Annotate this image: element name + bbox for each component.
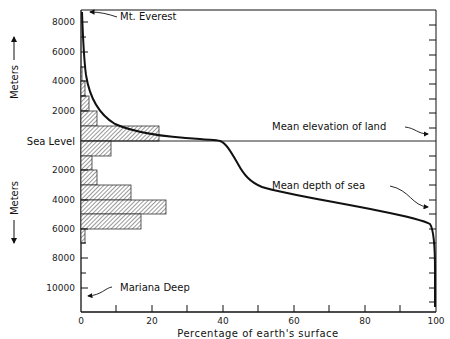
histogram-bars xyxy=(81,67,166,243)
svg-text:Mariana Deep: Mariana Deep xyxy=(120,282,190,293)
x-tick-80: 80 xyxy=(359,316,371,326)
svg-text:Mean depth of sea: Mean depth of sea xyxy=(272,180,365,191)
y-tick-6000-up: 6000 xyxy=(52,47,75,57)
x-tick-100: 100 xyxy=(427,316,444,326)
svg-text:Meters: Meters xyxy=(9,65,20,99)
sea-level-label: Sea Level xyxy=(27,136,75,147)
svg-text:Mt. Everest: Mt. Everest xyxy=(120,11,177,22)
hypsographic-chart: 8000 6000 4000 2000 Sea Level 2000 4000 … xyxy=(0,0,450,339)
y-tick-2000-up: 2000 xyxy=(52,106,75,116)
y-tick-8000-up: 8000 xyxy=(52,17,75,27)
x-tick-40: 40 xyxy=(217,316,229,326)
x-tick-0: 0 xyxy=(78,316,84,326)
y-tick-2000-down: 2000 xyxy=(52,165,75,175)
mariana-annotation: Mariana Deep xyxy=(88,282,190,296)
hypsographic-curve xyxy=(82,12,435,307)
x-axis-title: Percentage of earth's surface xyxy=(177,328,339,339)
everest-annotation: Mt. Everest xyxy=(90,11,177,22)
y-tick-4000-up: 4000 xyxy=(52,76,75,86)
y-tick-8000-down: 8000 xyxy=(52,253,75,263)
y-label-up: Meters xyxy=(9,37,20,99)
x-tick-60: 60 xyxy=(288,316,300,326)
y-tick-4000-down: 4000 xyxy=(52,195,75,205)
plot-frame xyxy=(81,10,436,312)
svg-text:Mean elevation of land: Mean elevation of land xyxy=(272,121,386,132)
x-tick-20: 20 xyxy=(146,316,158,326)
mean-sea-annotation: Mean depth of sea xyxy=(272,180,428,207)
y-label-down: Meters xyxy=(9,181,20,243)
y-tick-10000-down: 10000 xyxy=(46,283,75,293)
x-axis-ticks xyxy=(116,305,400,312)
y-tick-6000-down: 6000 xyxy=(52,224,75,234)
svg-text:Meters: Meters xyxy=(9,181,20,215)
mean-land-annotation: Mean elevation of land xyxy=(272,121,428,134)
